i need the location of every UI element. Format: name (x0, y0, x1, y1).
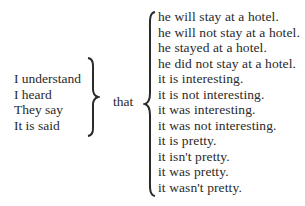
reporting-phrase: I understand (14, 71, 81, 87)
clause: it was pretty. (158, 164, 300, 180)
clauses-list: he will stay at a hotel. he will not sta… (158, 9, 300, 195)
clause: he will stay at a hotel. (158, 9, 300, 25)
clause: it was interesting. (158, 102, 300, 118)
clause: it isn't pretty. (158, 149, 300, 165)
left-curly-brace-icon (143, 11, 157, 197)
clause: it is not interesting. (158, 87, 300, 103)
clause: he stayed at a hotel. (158, 40, 300, 56)
clause: it was not interesting. (158, 118, 300, 134)
reporting-phrase: They say (14, 102, 81, 118)
clause: it is interesting. (158, 71, 300, 87)
clause: it is pretty. (158, 133, 300, 149)
reporting-phrase: I heard (14, 87, 81, 103)
connector-word: that (113, 94, 133, 110)
clause: he did not stay at a hotel. (158, 56, 300, 72)
right-curly-brace-icon (86, 57, 100, 137)
clause: he will not stay at a hotel. (158, 25, 300, 41)
reporting-phrases-list: I understand I heard They say It is said (14, 71, 81, 133)
clause: it wasn't pretty. (158, 180, 300, 196)
reporting-phrase: It is said (14, 118, 81, 134)
